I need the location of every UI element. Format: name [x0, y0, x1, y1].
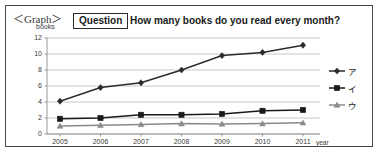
- series-layer: [57, 42, 306, 128]
- y-tick-label: 0: [26, 130, 42, 137]
- y-tick-label: 12: [26, 34, 42, 41]
- chart-canvas: [0, 0, 379, 154]
- graph-figure: ＜Graph＞ books Question How many books do…: [0, 0, 379, 154]
- line-chart: 0246810122005200620072008200920102011yea…: [0, 0, 379, 154]
- y-tick-label: 2: [26, 114, 42, 121]
- x-axis-unit-label: year: [316, 139, 329, 146]
- legend-markers: [329, 68, 345, 107]
- y-tick-label: 10: [26, 50, 42, 57]
- y-tick-label: 8: [26, 66, 42, 73]
- legend-label: イ: [348, 82, 357, 94]
- x-tick-label: 2005: [45, 138, 75, 145]
- legend-label: ウ: [348, 99, 357, 111]
- y-tick-label: 6: [26, 82, 42, 89]
- x-tick-label: 2007: [126, 138, 156, 145]
- x-tick-label: 2009: [207, 138, 237, 145]
- gridlines: [47, 38, 320, 134]
- x-tick-label: 2008: [167, 138, 197, 145]
- y-tick-label: 4: [26, 98, 42, 105]
- x-tick-label: 2006: [86, 138, 116, 145]
- legend-label: ア: [348, 65, 357, 77]
- x-tick-label: 2010: [248, 138, 278, 145]
- x-tick-label: 2011: [288, 138, 318, 145]
